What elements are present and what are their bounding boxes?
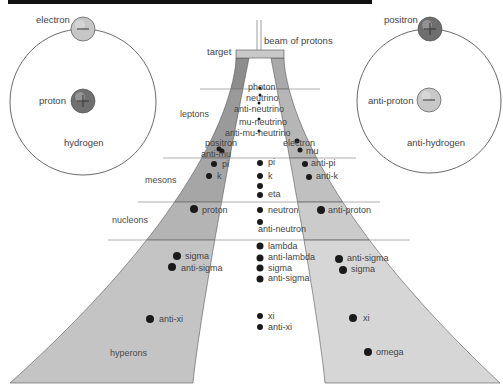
particle-label-center: neutrino [246, 93, 279, 103]
particle-label-center: pi [268, 157, 275, 167]
particle-label-center: anti-sigma [268, 273, 310, 283]
particle-label-center: anti-mu-neutrino [225, 128, 291, 138]
particle-label-right: omega [376, 347, 404, 357]
proton-particle-icon [71, 89, 95, 113]
particle-dot [257, 265, 264, 272]
anti-proton-particle-icon [417, 88, 441, 112]
target-block [236, 50, 284, 58]
particle-label-center: anti-lambda [268, 252, 315, 262]
particle-label-right: anti-pi [311, 158, 336, 168]
particle-label-left: anti-mu [201, 149, 231, 159]
particle-dot [257, 207, 263, 213]
anti-proton-label: anti-proton [368, 96, 413, 106]
particle-dot [349, 314, 357, 322]
particle-label-center: xi [268, 311, 275, 321]
particle-label-left: anti-sigma [181, 263, 223, 273]
target-label: target [207, 47, 231, 57]
particle-dot [211, 161, 217, 167]
particle-label-right: anti-proton [328, 205, 371, 215]
particle-label-center: sigma [268, 263, 292, 273]
electron-particle-icon [71, 17, 95, 41]
particle-dot [173, 252, 181, 260]
particle-label-center: lambda [268, 241, 298, 251]
category-hyperons: hyperons [110, 348, 147, 358]
beam-of-protons-lines [257, 20, 261, 50]
electron-label: electron [36, 15, 70, 25]
hydrogen-atom [10, 17, 156, 175]
particle-label-center: k [268, 171, 273, 181]
particle-label-left: positron [205, 138, 237, 148]
particle-dot [168, 263, 176, 271]
particle-label-right: anti-sigma [347, 253, 389, 263]
positron-particle-icon [418, 17, 442, 41]
particle-dot [257, 276, 264, 283]
particle-dot [364, 348, 372, 356]
particle-label-left: k [217, 171, 222, 181]
particle-dot [339, 266, 347, 274]
particle-label-right: xi [363, 313, 370, 323]
anti-hydrogen-label: anti-hydrogen [407, 138, 465, 148]
category-nucleons: nucleons [112, 215, 148, 225]
particle-label-left: proton [202, 205, 228, 215]
top-bar [8, 0, 372, 4]
particle-dot [257, 173, 263, 179]
particle-label-right: mu [306, 146, 319, 156]
particle-dot [335, 255, 343, 263]
beam-label: beam of protons [264, 36, 333, 46]
particle-label-center: neutron [268, 205, 299, 215]
particle-label-center: anti-neutrino [234, 104, 284, 114]
particle-dot [190, 205, 198, 213]
particle-dot [206, 173, 212, 179]
particle-dot [257, 255, 264, 262]
particle-label-center: mu-neutrino [239, 117, 287, 127]
particle-antiparticle-diagram: beam of protons target hydrogen electron… [0, 0, 503, 387]
particle-label-left: pi [222, 159, 229, 169]
particle-dot [146, 315, 154, 323]
particle-label-center: photon [248, 82, 276, 92]
particle-dot [257, 192, 263, 198]
particle-dot [257, 324, 263, 330]
category-leptons: leptons [180, 109, 209, 119]
particle-dot [298, 148, 303, 153]
diagram-graphics [0, 0, 503, 387]
category-mesons: mesons [145, 175, 177, 185]
particle-dot [302, 161, 308, 167]
particle-label-center: anti-xi [268, 322, 292, 332]
left-band-leptons-top [231, 58, 249, 89]
particle-label-center: anti-neutron [258, 224, 306, 234]
left-band-hyperons [10, 240, 215, 383]
particle-label-left: anti-xi [159, 314, 183, 324]
particle-dot [257, 160, 263, 166]
proton-label: proton [39, 96, 66, 106]
hydrogen-label: hydrogen [64, 138, 104, 148]
particle-label-right: sigma [351, 264, 375, 274]
right-band [271, 58, 500, 383]
particle-dot [257, 183, 263, 189]
particle-dot [257, 313, 263, 319]
particle-label-right: anti-k [316, 171, 338, 181]
particle-label-left: sigma [185, 251, 209, 261]
particle-dot [306, 174, 312, 180]
particle-dot [257, 243, 264, 250]
particle-dot [317, 206, 325, 214]
right-band-hyperons [304, 240, 500, 383]
particle-label-center: eta [268, 189, 281, 199]
positron-label: positron [384, 15, 418, 25]
